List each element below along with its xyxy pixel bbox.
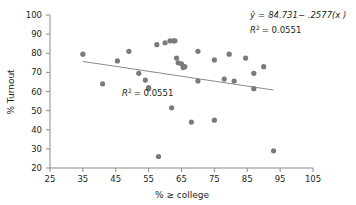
y-axis-ticks: 2030405060708090100	[26, 10, 50, 173]
x-tick-label: 45	[110, 174, 121, 184]
r-squared-exponent-inner: 2	[128, 87, 132, 94]
y-tick-label: 20	[31, 163, 42, 173]
equation-yhat: ŷ	[249, 10, 256, 20]
data-point	[80, 52, 85, 57]
x-tick-label: 25	[45, 174, 56, 184]
data-point	[143, 77, 148, 82]
data-point	[154, 42, 159, 47]
data-point	[156, 154, 161, 159]
y-tick-label: 90	[31, 29, 42, 39]
x-axis-title: % ≥ college	[155, 190, 210, 200]
y-axis-title: % Turnout	[6, 69, 16, 115]
y-tick-label: 40	[31, 125, 42, 135]
data-point	[195, 49, 200, 54]
data-point	[169, 105, 174, 110]
data-point	[271, 148, 276, 153]
x-tick-label: 95	[275, 174, 286, 184]
svg-text:R2= 0.0551: R2= 0.0551	[250, 24, 301, 35]
data-point	[227, 52, 232, 57]
data-point	[222, 76, 227, 81]
data-points-group	[80, 38, 276, 159]
data-point	[243, 55, 248, 60]
equation-equals: =	[258, 10, 265, 20]
x-tick-label: 65	[176, 174, 187, 184]
data-point	[261, 64, 266, 69]
data-point	[126, 49, 131, 54]
y-tick-label: 30	[31, 144, 42, 154]
r-squared-value-inner: = 0.0551	[134, 88, 174, 98]
data-point	[136, 71, 141, 76]
data-point	[174, 55, 179, 60]
inner-r-squared-annotation: R2= 0.0551	[122, 87, 173, 98]
axes-group: 2030405060708090100 2535455565758595105	[26, 10, 321, 184]
data-point	[195, 78, 200, 83]
data-point	[251, 71, 256, 76]
data-point	[212, 118, 217, 123]
x-tick-label: 55	[143, 174, 154, 184]
x-tick-label: 105	[305, 174, 321, 184]
x-axis-ticks: 2535455565758595105	[45, 168, 322, 184]
data-point	[212, 57, 217, 62]
equation-annotation: ŷ=84.731− .2577(x ) R2= 0.0551	[249, 10, 346, 35]
plot-canvas: 2030405060708090100 2535455565758595105 …	[0, 0, 356, 205]
y-tick-label: 70	[31, 67, 42, 77]
y-tick-label: 50	[31, 106, 42, 116]
x-tick-label: 35	[77, 174, 88, 184]
svg-text:R2= 0.0551: R2= 0.0551	[122, 87, 173, 98]
data-point	[251, 86, 256, 91]
y-tick-label: 60	[31, 87, 42, 97]
data-point	[189, 120, 194, 125]
regression-line	[83, 61, 274, 90]
data-point	[115, 58, 120, 63]
scatter-plot-figure: 2030405060708090100 2535455565758595105 …	[0, 0, 356, 205]
data-point	[100, 81, 105, 86]
data-point	[232, 78, 237, 83]
r-squared-exponent: 2	[256, 24, 260, 31]
x-tick-label: 75	[209, 174, 220, 184]
y-tick-label: 100	[26, 10, 42, 20]
svg-text:ŷ=84.731− .2577(x ): ŷ=84.731− .2577(x )	[249, 10, 346, 20]
data-point	[172, 38, 177, 43]
x-tick-label: 85	[242, 174, 253, 184]
equation-rhs: 84.731− .2577(x )	[268, 10, 346, 20]
data-point	[182, 64, 187, 69]
r-squared-value: = 0.0551	[262, 25, 302, 35]
y-tick-label: 80	[31, 48, 42, 58]
data-point	[162, 40, 167, 45]
